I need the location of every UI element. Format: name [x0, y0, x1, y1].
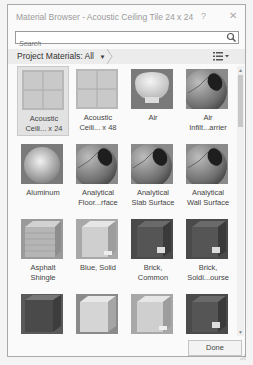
done-button[interactable]: Done [188, 340, 242, 356]
material-tile[interactable] [182, 291, 234, 336]
material-thumbnail [21, 294, 63, 334]
material-label: Brick, Common [127, 263, 179, 283]
material-thumbnail [21, 219, 63, 259]
resize-grip-icon[interactable] [240, 354, 246, 360]
material-thumbnail [76, 144, 118, 184]
material-thumbnail [186, 144, 228, 184]
material-label: Air [127, 113, 179, 123]
material-tile[interactable]: Analytical Slab Surface [127, 141, 179, 211]
material-thumbnail [76, 294, 118, 334]
material-label: Aluminum [17, 188, 69, 198]
material-tile[interactable] [17, 291, 69, 336]
material-browser-dialog: Material Browser - Acoustic Ceiling Tile… [7, 4, 246, 357]
material-label: Analytical Wall Surface [182, 188, 234, 208]
material-tile[interactable]: Aluminum [17, 141, 69, 211]
list-view-icon[interactable] [212, 51, 230, 62]
material-tile[interactable]: Asphalt Shingle [17, 216, 69, 286]
material-tile[interactable] [72, 291, 124, 336]
material-tile[interactable]: Brick, Common [127, 216, 179, 286]
material-thumbnail [186, 294, 228, 334]
material-thumbnail [186, 219, 228, 259]
search-input[interactable] [16, 38, 219, 49]
vertical-scrollbar[interactable]: ▲ ▼ [237, 66, 244, 336]
material-label: Analytical Floor...rface [72, 188, 124, 208]
material-label: Blue, Solid [72, 263, 124, 273]
material-label: Acoustic Ceili... x 48 [72, 113, 124, 133]
scroll-down-icon[interactable]: ▼ [238, 329, 243, 335]
material-thumbnail [21, 144, 63, 184]
material-tile[interactable]: Analytical Floor...rface [72, 141, 124, 211]
material-label: Analytical Slab Surface [127, 188, 179, 208]
close-button[interactable]: ✕ [229, 10, 237, 21]
scroll-up-icon[interactable]: ▲ [238, 67, 243, 73]
material-tile[interactable]: Acoustic Ceili... x 48 [72, 66, 124, 136]
material-tile[interactable]: Blue, Solid [72, 216, 124, 286]
material-label: Acoustic Ceili... x 24 [18, 114, 70, 134]
materials-grid: Acoustic Ceili... x 24Acoustic Ceili... … [17, 66, 237, 336]
material-thumbnail [131, 219, 173, 259]
material-label: Air Infilt...arrier [182, 113, 234, 133]
help-button[interactable]: ? [201, 11, 206, 21]
material-tile[interactable]: Analytical Wall Surface [182, 141, 234, 211]
chevron-down-icon: ▼ [99, 54, 105, 60]
breadcrumb-bar: Project Materials: All ▼ [8, 49, 245, 64]
material-tile[interactable]: Air Infilt...arrier [182, 66, 234, 136]
search-box [15, 31, 239, 44]
window-title: Material Browser - Acoustic Ceiling Tile… [16, 12, 193, 22]
search-icon[interactable] [226, 32, 237, 43]
material-thumbnail [131, 294, 173, 334]
material-thumbnail [131, 144, 173, 184]
material-tile[interactable] [127, 291, 179, 336]
material-thumbnail [76, 219, 118, 259]
material-thumbnail [131, 69, 173, 109]
material-thumbnail [22, 70, 64, 110]
material-label: Asphalt Shingle [17, 263, 69, 283]
material-thumbnail [186, 69, 228, 109]
breadcrumb-separator-icon [106, 49, 114, 64]
material-tile[interactable]: Air [127, 66, 179, 136]
scrollbar-thumb[interactable] [238, 75, 243, 127]
breadcrumb-label: Project Materials: All [17, 51, 94, 61]
material-label: Brick, Soldi...ourse [182, 263, 234, 283]
material-tile[interactable]: Acoustic Ceili... x 24 [17, 66, 69, 136]
breadcrumb-project-materials[interactable]: Project Materials: All ▼ [17, 51, 105, 61]
material-thumbnail [76, 69, 118, 109]
material-tile[interactable]: Brick, Soldi...ourse [182, 216, 234, 286]
